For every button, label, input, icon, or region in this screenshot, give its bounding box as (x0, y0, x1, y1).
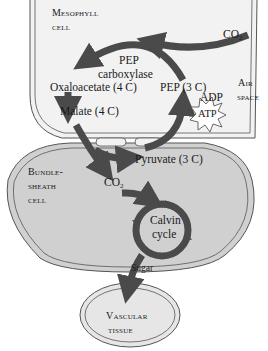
pyruvate-label: Pyruvate (3 C) (135, 154, 203, 166)
sugar-label: Sugar (131, 264, 153, 274)
bundle-sheath-label-3: cell (28, 195, 46, 205)
mesophyll-label-2: cell (52, 22, 70, 32)
bundle-sheath-label-1: Bundle- (28, 167, 63, 177)
vascular-label-2: tissue (108, 325, 133, 335)
malate-label: Malate (4 C) (60, 106, 119, 118)
vascular-label-1: Vascular (106, 311, 148, 321)
adp-label: ADP (200, 92, 223, 104)
calvin-label-2: cycle (152, 229, 176, 241)
calvin-label-1: Calvin (150, 215, 181, 227)
mesophyll-label-1: Mesophyll (52, 8, 98, 18)
air-space-label-2: space (237, 92, 259, 102)
co2-bundle-label: CO2 (104, 177, 123, 190)
pep-carboxylase-label-1: PEP (119, 55, 139, 67)
air-space-label-1: Air (238, 78, 253, 88)
pep-carboxylase-label-2: carboxylase (98, 69, 153, 81)
oxaloacetate-label: Oxaloacetate (4 C) (50, 82, 137, 94)
bundle-sheath-label-2: sheath (28, 181, 56, 191)
bundle-sheath-cell (7, 143, 254, 272)
atp-label: ATP (198, 109, 217, 120)
co2-input-label: CO2 (223, 29, 242, 42)
